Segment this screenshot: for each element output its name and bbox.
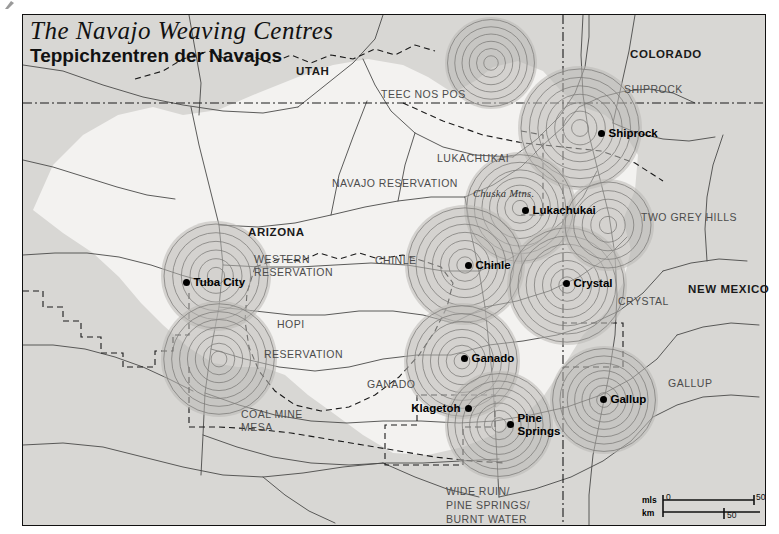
map-graphics — [23, 15, 766, 526]
map-screenshot: The Navajo Weaving Centres Teppichzentre… — [0, 0, 779, 534]
map-frame — [22, 14, 766, 526]
corner-artifact-icon — [4, 0, 16, 10]
